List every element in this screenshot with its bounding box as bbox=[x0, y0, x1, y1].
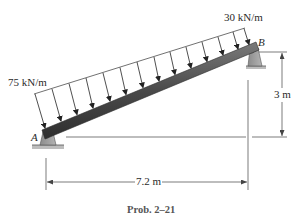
beam-diagram: 75 kN/m 30 kN/m A B 3 m 7.2 m Prob. 2–21 bbox=[0, 0, 305, 219]
vertical-dimension-label: 3 m bbox=[273, 88, 292, 100]
horizontal-dimension-label: 7.2 m bbox=[135, 175, 162, 187]
left-load-label: 75 kN/m bbox=[8, 76, 47, 88]
problem-caption: Prob. 2–21 bbox=[127, 204, 175, 215]
beam bbox=[42, 42, 259, 139]
right-load-label: 30 kN/m bbox=[224, 11, 263, 23]
point-b-label: B bbox=[258, 36, 265, 48]
distributed-load bbox=[34, 28, 249, 128]
point-a-label: A bbox=[31, 131, 38, 143]
